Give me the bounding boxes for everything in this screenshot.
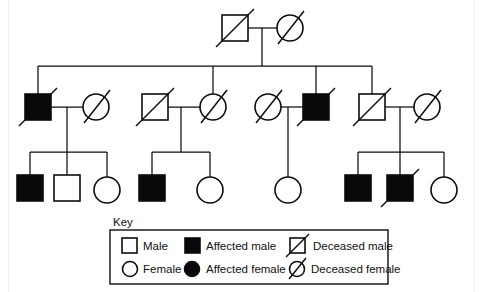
individual-II-7[interactable]	[353, 88, 391, 126]
open-square-icon	[122, 238, 137, 253]
legend-label-affected-female: Affected female	[206, 263, 286, 275]
individual-III-1[interactable]	[17, 175, 43, 201]
circle-symbol	[94, 177, 120, 203]
legend-entry-female[interactable]: Female	[123, 262, 182, 277]
generation-2-group	[19, 88, 441, 126]
square-symbol-filled	[17, 175, 43, 201]
individual-III-2[interactable]	[54, 175, 80, 201]
generation-3-group	[17, 169, 457, 207]
individual-II-3[interactable]	[136, 88, 174, 126]
key-title: Key	[113, 216, 133, 228]
legend-label-affected-male: Affected male	[206, 240, 276, 252]
individual-III-3[interactable]	[94, 177, 120, 203]
individual-III-8[interactable]	[381, 169, 419, 207]
individual-II-1[interactable]	[19, 88, 57, 126]
individual-II-8[interactable]	[414, 90, 441, 123]
filled-square-icon	[185, 238, 200, 253]
square-symbol-filled	[139, 175, 165, 201]
legend-label-deceased-female: Deceased female	[311, 263, 401, 275]
individual-II-6[interactable]	[297, 88, 335, 126]
key-legend: Key Male Affected male Deceased male Fem…	[110, 216, 401, 284]
legend-entry-affected-male[interactable]: Affected male	[185, 238, 276, 253]
individual-III-7[interactable]	[345, 175, 371, 201]
pedigree-canvas: Key Male Affected male Deceased male Fem…	[0, 0, 483, 292]
individual-III-6[interactable]	[275, 177, 301, 203]
legend-label-deceased-male: Deceased male	[313, 240, 393, 252]
individual-II-5[interactable]	[255, 90, 282, 123]
circle-symbol	[197, 177, 223, 203]
individual-I-1[interactable]	[216, 9, 254, 47]
individual-III-4[interactable]	[139, 175, 165, 201]
open-circle-icon	[123, 262, 138, 277]
legend-label-male: Male	[143, 240, 168, 252]
square-symbol	[54, 175, 80, 201]
filled-circle-icon	[185, 262, 200, 277]
individual-I-2[interactable]	[277, 11, 304, 44]
pedigree-figure: Key Male Affected male Deceased male Fem…	[0, 0, 483, 292]
square-symbol-filled	[345, 175, 371, 201]
legend-label-female: Female	[143, 263, 181, 275]
legend-box-border	[110, 230, 388, 284]
circle-symbol	[431, 177, 457, 203]
individual-III-9[interactable]	[431, 177, 457, 203]
circle-symbol	[275, 177, 301, 203]
legend-entry-male[interactable]: Male	[122, 238, 168, 253]
individual-II-2[interactable]	[83, 90, 110, 123]
individual-III-5[interactable]	[197, 177, 223, 203]
individual-II-4[interactable]	[200, 90, 227, 123]
